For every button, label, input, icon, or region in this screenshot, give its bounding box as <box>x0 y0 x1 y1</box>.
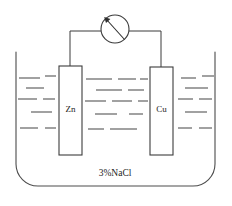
zinc-electrode: Zn <box>59 66 82 155</box>
electrolyte-caption: 3%NaCl <box>99 168 132 178</box>
meter-gauge <box>101 15 129 43</box>
zinc-electrode-label: Zn <box>66 104 76 114</box>
electrolyte-vessel <box>16 52 215 186</box>
copper-electrode-label: Cu <box>156 104 167 114</box>
copper-electrode: Cu <box>150 67 173 155</box>
figure-canvas: Zn Cu 3%NaCl <box>0 0 232 206</box>
corrosion-cell-figure: Zn Cu 3%NaCl <box>0 0 232 206</box>
electrolyte-dashes-left <box>18 76 56 128</box>
electrolyte-dashes-middle <box>85 79 148 129</box>
electrolyte-dashes-right <box>178 76 214 128</box>
